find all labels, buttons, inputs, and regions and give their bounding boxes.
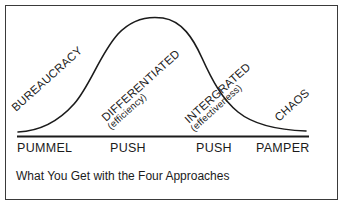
stage-label-push-2: PUSH: [196, 141, 232, 155]
figure-caption: What You Get with the Four Approaches: [16, 169, 229, 183]
curve-label-bureaucracy-text: BUREAUCRACY: [9, 44, 84, 113]
curve-label-differentiated: DIFFERENTIATED (efficiency): [99, 47, 182, 131]
stage-label-row: PUMMEL PUSH PUSH PAMPER: [0, 141, 344, 159]
bell-curve-path: [18, 17, 306, 132]
curve-label-chaos: CHAOS: [272, 86, 311, 123]
stage-label-push-1: PUSH: [110, 141, 146, 155]
curve-label-intergrated: INTERGRATED (effectiveness): [182, 61, 252, 134]
stage-label-pamper: PAMPER: [256, 141, 310, 155]
stage-label-pummel: PUMMEL: [17, 141, 72, 155]
curve-label-chaos-text: CHAOS: [272, 86, 311, 123]
curve-label-bureaucracy: BUREAUCRACY: [9, 44, 84, 113]
curve-label-differentiated-text: DIFFERENTIATED: [99, 47, 182, 123]
figure-container: BUREAUCRACY DIFFERENTIATED (efficiency) …: [0, 0, 344, 206]
